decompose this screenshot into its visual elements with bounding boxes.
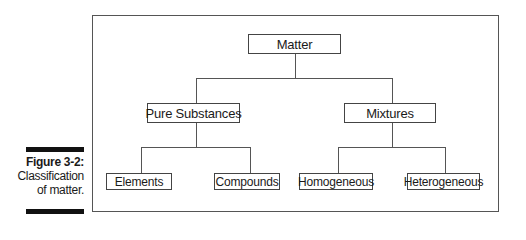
- node-matter: Matter: [248, 34, 341, 54]
- caption-line-2: of matter.: [0, 183, 84, 197]
- connector-pure-substances-down: [196, 122, 197, 147]
- node-elements: Elements: [106, 173, 172, 190]
- node-mixtures: Mixtures: [344, 103, 436, 123]
- connector-mixtures-horizontal: [338, 147, 446, 148]
- connector-to-pure-substances: [196, 78, 197, 103]
- connector-to-heterogeneous: [445, 147, 446, 173]
- caption-bottom-rule: [26, 209, 84, 214]
- node-homogeneous: Homogeneous: [299, 173, 373, 190]
- connector-level2-horizontal: [196, 78, 393, 79]
- node-compounds: Compounds: [214, 173, 280, 190]
- node-heterogeneous: Heterogeneous: [407, 173, 480, 190]
- connector-pure-substances-horizontal: [141, 147, 251, 148]
- figure-label: Figure 3-2:: [0, 155, 84, 169]
- connector-to-elements: [141, 147, 142, 173]
- caption-top-rule: [26, 147, 84, 152]
- connector-to-mixtures: [392, 78, 393, 103]
- caption-line-1: Classification: [0, 169, 84, 183]
- connector-to-homogeneous: [338, 147, 339, 173]
- figure-caption: Figure 3-2: Classification of matter.: [0, 155, 84, 197]
- connector-matter-down: [295, 53, 296, 78]
- node-pure-substances: Pure Substances: [147, 103, 240, 123]
- connector-to-compounds: [250, 147, 251, 173]
- connector-mixtures-down: [392, 122, 393, 147]
